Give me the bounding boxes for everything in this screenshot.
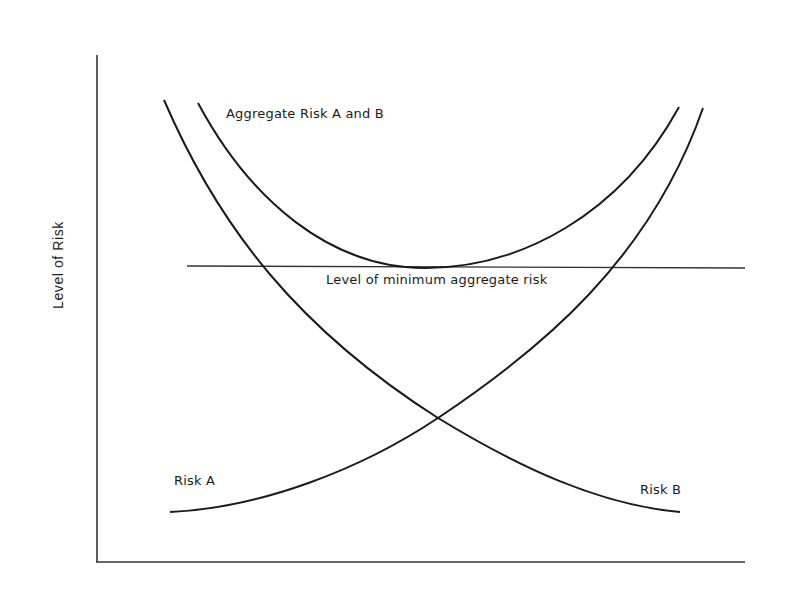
risk-a-curve [170,108,703,512]
risk-b-label: Risk B [640,482,681,497]
y-axis-label: Level of Risk [50,221,66,309]
risk-b-curve [164,100,680,512]
risk-a-label: Risk A [174,473,215,488]
aggregate-risk-label: Aggregate Risk A and B [226,106,384,121]
diagram-svg [0,0,785,590]
minimum-aggregate-risk-label: Level of minimum aggregate risk [326,272,547,287]
aggregate-risk-curve [198,103,679,268]
risk-diagram: Level of Risk Aggregate Risk A and B Lev… [0,0,785,590]
minimum-aggregate-risk-line [187,266,745,268]
